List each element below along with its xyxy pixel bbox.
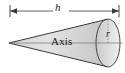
cone-geometry-figure: h r Axis [0,0,125,73]
axis-label: Axis [51,36,73,47]
height-arrow-right-icon [112,8,119,13]
height-label: h [55,2,61,13]
height-arrow-left-icon [10,8,17,13]
radius-label: r [106,29,110,39]
